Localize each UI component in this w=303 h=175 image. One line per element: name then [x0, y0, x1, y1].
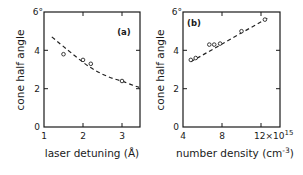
panel-b-frame	[183, 12, 280, 127]
panel-a-fit-curve	[52, 37, 140, 88]
panel-a-xtick-1: 1	[41, 131, 47, 141]
panel-b-ytick-0: 0	[173, 122, 179, 132]
panel-b-ylabel: cone half angle	[154, 30, 166, 111]
panel-b-point	[240, 29, 244, 33]
panel-a-label: (a)	[117, 27, 131, 37]
panel-a-xlabel: laser detuning (Å)	[45, 147, 139, 159]
panel-a-point	[62, 52, 66, 56]
panel-b-fit-line	[191, 17, 270, 62]
panel-a: 0 2 4 6° 1 2 3 laser detuning (Å) cone h…	[14, 7, 140, 159]
panel-a-ytick-0: 0	[34, 122, 40, 132]
panel-a-xtick-3: 3	[119, 131, 125, 141]
panel-b-ytick-6: 6°	[172, 7, 182, 17]
panel-b-point	[208, 43, 212, 47]
panel-a-ytick-2: 2	[34, 84, 40, 94]
panel-b-point	[212, 43, 216, 47]
panel-b-ytick-4: 4	[173, 46, 179, 56]
panel-b-xtick-8: 8	[219, 131, 225, 141]
figure: 0 2 4 6° 1 2 3 laser detuning (Å) cone h…	[0, 0, 303, 175]
panel-a-xtick-2: 2	[80, 131, 86, 141]
panel-b-point	[263, 18, 267, 22]
panel-a-point	[89, 62, 93, 66]
panel-a-point	[120, 79, 124, 83]
panel-b-xtick-4: 4	[180, 131, 186, 141]
panel-b-point	[189, 58, 193, 62]
panel-a-point	[81, 58, 85, 62]
panel-b-label: (b)	[187, 18, 201, 28]
panel-b-point	[218, 42, 222, 46]
panel-a-ylabel: cone half angle	[14, 30, 26, 111]
panel-b: 0 2 4 6° 4 8 12×1015 number density (cm-…	[154, 7, 294, 159]
panel-a-ytick-4: 4	[34, 46, 40, 56]
panel-a-ytick-6: 6°	[33, 7, 43, 17]
panel-b-point	[194, 56, 198, 60]
panel-b-xlabel: number density (cm-3)	[176, 146, 294, 159]
panel-b-xtick-12: 12×1015	[254, 129, 293, 141]
panel-b-ytick-2: 2	[173, 84, 179, 94]
